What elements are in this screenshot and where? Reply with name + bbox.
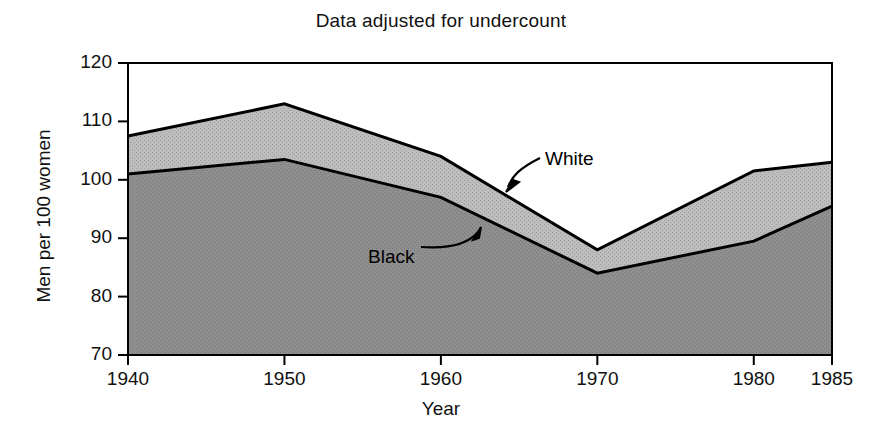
x-axis-ticks (128, 355, 832, 365)
y-tick-label: 70 (56, 343, 112, 365)
y-axis-ticks (118, 63, 128, 355)
y-tick-label: 110 (56, 109, 112, 131)
x-tick-label: 1985 (787, 368, 877, 390)
annotation-label-white: White (545, 148, 594, 170)
y-tick-label: 80 (56, 285, 112, 307)
y-tick-label: 120 (56, 51, 112, 73)
x-axis-title: Year (0, 398, 882, 420)
x-tick-label: 1980 (709, 368, 799, 390)
x-tick-label: 1940 (83, 368, 173, 390)
chart-container: Data adjusted for undercount (0, 0, 882, 436)
y-tick-label: 100 (56, 168, 112, 190)
annotation-arrow-white (506, 158, 540, 192)
x-tick-label: 1970 (552, 368, 642, 390)
x-tick-label: 1950 (239, 368, 329, 390)
y-axis-title: Men per 100 women (33, 86, 55, 346)
annotation-label-black: Black (368, 246, 414, 268)
x-tick-label: 1960 (396, 368, 486, 390)
y-tick-label: 90 (56, 226, 112, 248)
